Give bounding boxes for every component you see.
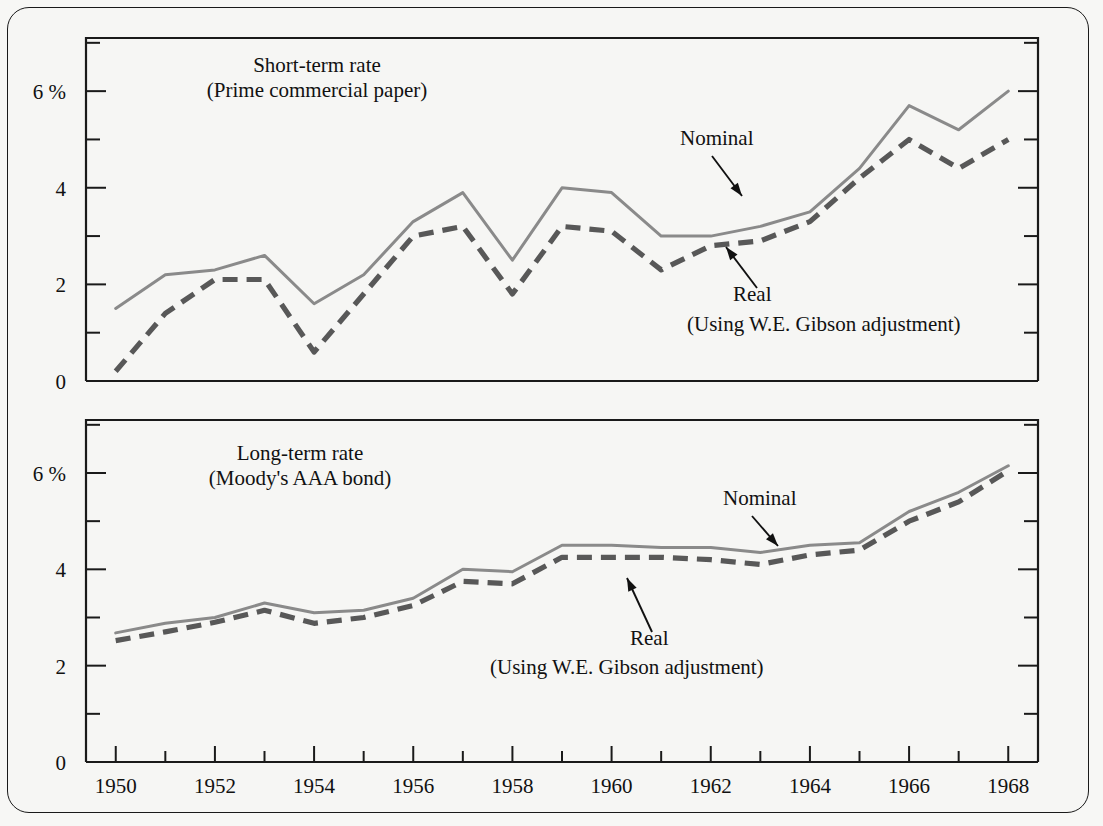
x-axis-tick-label: 1966 [888,774,930,798]
annotation-arrow-head [627,578,637,592]
y-axis-tick-label: 4 [56,558,67,582]
annotation-label-nominal: Nominal [723,486,797,510]
series-line-nominal [116,91,1009,308]
x-axis-tick-label: 1950 [95,774,137,798]
y-axis-tick-label: 0 [56,370,67,394]
y-axis-tick-label: 0 [56,751,67,775]
y-axis-tick-label: 6 % [33,462,66,486]
y-axis-tick-label: 6 % [33,80,66,104]
annotation-label-nominal: Nominal [680,126,754,150]
panel-title: Short-term rate [253,53,381,77]
x-axis-tick-label: 1968 [987,774,1029,798]
x-axis-tick-label: 1952 [194,774,236,798]
x-axis-tick-label: 1956 [392,774,434,798]
x-axis-tick-label: 1964 [789,774,832,798]
annotation-label-real: Real [630,626,669,650]
chart-panel-long-term: 0246 %1950195219541956195819601962196419… [33,420,1038,798]
annotation-label-real: Real [733,282,772,306]
x-axis-tick-label: 1960 [591,774,633,798]
series-line-nominal [116,466,1009,633]
interest-rate-chart: 0246 %Short-term rate(Prime commercial p… [0,0,1103,826]
x-axis-tick-label: 1954 [293,774,336,798]
series-line-real [116,140,1009,372]
y-axis-tick-label: 4 [56,177,67,201]
panel-title: Long-term rate [237,441,364,465]
annotation-arrow-head [731,183,742,196]
annotation-arrow-head [726,247,738,260]
series-line-real [116,471,1009,641]
y-axis-tick-label: 2 [56,655,67,679]
panel-subtitle: (Prime commercial paper) [207,78,427,102]
y-axis-tick-label: 2 [56,273,67,297]
figure-root: 0246 %Short-term rate(Prime commercial p… [0,0,1103,826]
annotation-label-using-w-e-gibson-adjustment: (Using W.E. Gibson adjustment) [490,655,764,679]
panel-subtitle: (Moody's AAA bond) [209,466,391,490]
annotation-label-using-w-e-gibson-adjustment: (Using W.E. Gibson adjustment) [687,312,961,336]
x-axis-tick-label: 1962 [690,774,732,798]
x-axis-tick-label: 1958 [491,774,533,798]
chart-panel-short-term: 0246 %Short-term rate(Prime commercial p… [33,38,1038,394]
